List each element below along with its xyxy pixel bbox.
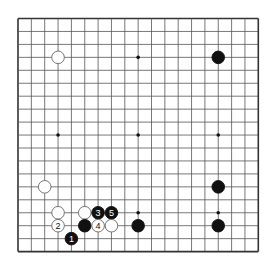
white-stone-disc (52, 51, 65, 64)
white-stone (52, 51, 65, 64)
black-stone (212, 51, 225, 64)
black-stone (132, 219, 145, 232)
black-stone-disc (78, 219, 91, 232)
move-number-label: 4 (96, 221, 101, 231)
black-stone-disc (132, 219, 145, 232)
white-stone: 4 (92, 219, 105, 232)
move-number-label: 3 (96, 208, 101, 218)
move-number-label: 5 (109, 208, 114, 218)
white-stone (105, 219, 118, 232)
white-stone (52, 206, 65, 219)
hoshi-point (136, 211, 140, 215)
white-stone (78, 206, 91, 219)
move-number-label: 1 (69, 234, 74, 244)
white-stone-disc (78, 206, 91, 219)
hoshi-point (216, 133, 220, 137)
hoshi-point (136, 56, 140, 60)
black-stone (78, 219, 91, 232)
black-stone-disc (212, 181, 225, 194)
hoshi-point (56, 133, 60, 137)
white-stone-disc (52, 206, 65, 219)
black-stone: 3 (92, 206, 105, 219)
white-stone-disc (105, 219, 118, 232)
black-stone (212, 219, 225, 232)
black-stone-disc (212, 219, 225, 232)
hoshi-point (216, 211, 220, 215)
black-stone: 5 (105, 206, 118, 219)
black-stone-disc (212, 51, 225, 64)
black-stone (212, 181, 225, 194)
go-board: 35241 (0, 0, 278, 267)
hoshi-point (136, 133, 140, 137)
white-stone (38, 181, 51, 194)
white-stone: 2 (52, 219, 65, 232)
move-number-label: 2 (56, 221, 61, 231)
black-stone: 1 (65, 232, 78, 245)
white-stone-disc (38, 181, 51, 194)
